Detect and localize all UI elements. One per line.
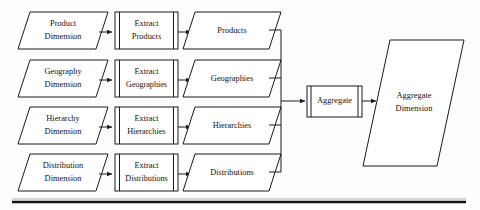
source-label-geography-line1: Geography <box>44 67 82 76</box>
process-label-geographies-line1: Extract <box>134 67 159 76</box>
source-parallelogram-distribution[interactable] <box>18 154 108 191</box>
output-label-hierarchies: Hierarchies <box>213 121 252 130</box>
process-label-aggregate: Aggregate <box>317 96 352 105</box>
result-label-aggregate-dimension-line1: Aggregate <box>397 91 432 100</box>
diagram-canvas: Product Dimension Extract Products Produ… <box>0 0 480 210</box>
source-label-hierarchy-line2: Dimension <box>45 127 83 136</box>
process-label-distributions-line2: Distributions <box>125 174 167 183</box>
source-parallelogram-geography[interactable] <box>18 60 108 97</box>
output-label-products: Products <box>217 26 246 35</box>
source-label-distribution-line1: Distribution <box>43 161 84 170</box>
row-distribution: Distribution Dimension Extract Distribut… <box>18 154 281 191</box>
source-label-product-line2: Dimension <box>45 32 83 41</box>
process-box-extract-products[interactable] <box>115 12 178 49</box>
source-label-geography-line2: Dimension <box>45 80 83 89</box>
process-label-hierarchies-line1: Extract <box>134 114 159 123</box>
row-geography: Geography Dimension Extract Geographies … <box>18 60 281 97</box>
source-parallelogram-hierarchy[interactable] <box>18 107 108 144</box>
source-label-product-line1: Product <box>50 19 77 28</box>
source-label-distribution-line2: Dimension <box>45 174 83 183</box>
collector-bus <box>269 30 305 172</box>
source-label-hierarchy-line1: Hierarchy <box>46 114 80 123</box>
process-label-distributions-line1: Extract <box>134 161 159 170</box>
process-label-hierarchies-line2: Hierarchies <box>127 127 166 136</box>
flowchart-svg: Product Dimension Extract Products Produ… <box>0 0 480 210</box>
process-label-geographies-line2: Geographies <box>126 80 167 89</box>
result-label-aggregate-dimension-line2: Dimension <box>396 104 434 113</box>
process-box-extract-distributions[interactable] <box>115 154 178 191</box>
output-label-geographies: Geographies <box>211 74 253 83</box>
aggregate-group: Aggregate Aggregate Dimension <box>307 40 464 166</box>
row-product: Product Dimension Extract Products Produ… <box>18 12 281 49</box>
source-parallelogram-product[interactable] <box>18 12 108 49</box>
output-label-distributions: Distributions <box>210 168 254 177</box>
process-box-extract-geographies[interactable] <box>115 60 178 97</box>
process-label-products-line2: Products <box>132 32 161 41</box>
footer-rule-group <box>12 199 466 202</box>
row-hierarchy: Hierarchy Dimension Extract Hierarchies … <box>18 107 281 144</box>
process-label-products-line1: Extract <box>134 19 159 28</box>
process-box-extract-hierarchies[interactable] <box>115 107 178 144</box>
